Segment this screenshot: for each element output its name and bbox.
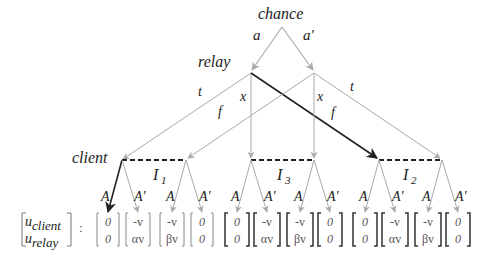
svg-text:I: I <box>276 166 283 183</box>
svg-text:0: 0 <box>362 232 368 246</box>
svg-text:0: 0 <box>327 215 333 229</box>
payoff-12: 0 0 <box>446 213 470 246</box>
game-tree: chance relay client a a' t x f x f t I 1… <box>0 0 491 261</box>
payoff-6: -v αv <box>254 213 280 246</box>
svg-text:0: 0 <box>199 215 205 229</box>
svg-text:βv: βv <box>166 232 178 246</box>
info-set-label-3: I 3 <box>276 166 291 186</box>
svg-text:A: A <box>230 189 240 204</box>
svg-text:0: 0 <box>105 215 111 229</box>
action-a-prime: a' <box>303 27 315 43</box>
payoff-1: 0 0 <box>97 213 119 246</box>
payoff-vectors: 0 0 -v αv -v βv 0 0 0 0 -v αv <box>97 213 470 246</box>
svg-text:A': A' <box>391 189 405 204</box>
svg-text:A: A <box>293 189 303 204</box>
svg-text:-v: -v <box>167 215 177 229</box>
svg-text:A: A <box>165 189 175 204</box>
payoff-9: 0 0 <box>353 213 377 246</box>
svg-text:βv: βv <box>422 232 434 246</box>
payoff-5: 0 0 <box>225 213 249 246</box>
svg-text:A: A <box>100 189 110 204</box>
svg-text:-v: -v <box>262 215 272 229</box>
payoff-7: -v βv <box>287 213 313 246</box>
action-x-left: x <box>239 89 247 104</box>
svg-text:A': A' <box>454 189 468 204</box>
svg-text:βv: βv <box>294 232 306 246</box>
relay-edges <box>123 73 440 159</box>
svg-text:client: client <box>32 218 61 233</box>
svg-text:A: A <box>358 189 368 204</box>
svg-text:I: I <box>152 166 159 183</box>
svg-text:2: 2 <box>411 174 417 186</box>
action-x-right: x <box>316 89 324 104</box>
chance-label: chance <box>258 5 303 22</box>
svg-text:0: 0 <box>362 215 368 229</box>
payoff-8: 0 0 <box>318 213 342 246</box>
svg-text:0: 0 <box>199 232 205 246</box>
svg-text:1: 1 <box>161 174 167 186</box>
action-f-left: f <box>218 104 224 119</box>
payoff-10: -v αv <box>382 213 408 246</box>
svg-text:-v: -v <box>390 215 400 229</box>
svg-text:A': A' <box>326 189 340 204</box>
svg-text:0: 0 <box>455 232 461 246</box>
svg-text:A: A <box>421 189 431 204</box>
svg-text:I: I <box>402 166 409 183</box>
svg-text:A': A' <box>133 189 147 204</box>
payoff-2: -v αv <box>126 213 150 246</box>
client-action-labels: A A' A A' A A' A A' A A' A A' <box>100 189 468 204</box>
svg-text:3: 3 <box>284 174 291 186</box>
client-label: client <box>72 149 108 166</box>
payoff-header: u client u relay : <box>22 213 83 250</box>
svg-text:u: u <box>25 214 32 229</box>
svg-text:-v: -v <box>133 215 143 229</box>
svg-text:-v: -v <box>295 215 305 229</box>
action-a: a <box>253 27 261 43</box>
payoff-4: 0 0 <box>191 213 213 246</box>
svg-text:A': A' <box>198 189 212 204</box>
svg-text:relay: relay <box>32 235 58 250</box>
action-f-right: f <box>331 105 337 120</box>
svg-text:u: u <box>25 231 32 246</box>
info-set-label-2: I 2 <box>402 166 417 186</box>
payoff-11: -v βv <box>415 213 441 246</box>
svg-text:0: 0 <box>234 215 240 229</box>
svg-text:αv: αv <box>261 232 273 246</box>
svg-text:-v: -v <box>423 215 433 229</box>
svg-text:αv: αv <box>132 232 144 246</box>
action-t-left: t <box>198 84 203 99</box>
relay-label: relay <box>198 53 231 71</box>
svg-text:0: 0 <box>455 215 461 229</box>
svg-text:A': A' <box>263 189 277 204</box>
svg-text:0: 0 <box>234 232 240 246</box>
svg-text:0: 0 <box>105 232 111 246</box>
info-set-label-1: I 1 <box>152 166 167 186</box>
payoff-3: -v βv <box>160 213 184 246</box>
action-t-right: t <box>350 79 355 94</box>
svg-text:αv: αv <box>389 232 401 246</box>
svg-text:0: 0 <box>327 232 333 246</box>
svg-text::: : <box>79 220 83 235</box>
